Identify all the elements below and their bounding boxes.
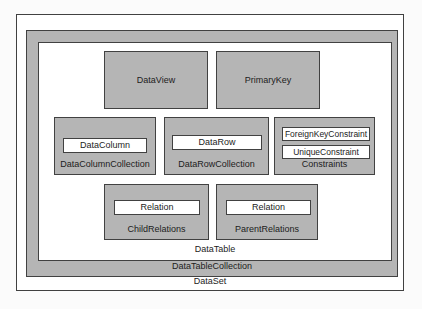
child-relation-box: Relation [114, 200, 200, 215]
childrelations-label: ChildRelations [105, 225, 208, 234]
datacolumn-box: DataColumn [63, 138, 147, 153]
primarykey-box: PrimaryKey [216, 51, 320, 109]
parent-relation-label: Relation [252, 203, 285, 212]
foreignkeyconstraint-box: ForeignKeyConstraint [282, 127, 370, 141]
parentrelations-label: ParentRelations [217, 225, 317, 234]
uniqueconstraint-label: UniqueConstraint [293, 148, 359, 157]
datatable-label: DataTable [39, 245, 391, 254]
datarowcollection-label: DataRowCollection [165, 160, 268, 169]
datacolumn-label: DataColumn [80, 141, 130, 150]
child-relation-label: Relation [140, 203, 173, 212]
parentrelations-box: Relation ParentRelations [216, 184, 318, 240]
datacolumncollection-box: DataColumn DataColumnCollection [54, 117, 156, 175]
constraints-box: ForeignKeyConstraint UniqueConstraint Co… [274, 117, 375, 175]
datacolumncollection-label: DataColumnCollection [55, 160, 155, 169]
datatable-box: DataTable DataView PrimaryKey DataColumn… [38, 42, 392, 261]
childrelations-box: Relation ChildRelations [104, 184, 209, 240]
datarowcollection-box: DataRow DataRowCollection [164, 117, 269, 175]
parent-relation-box: Relation [226, 200, 311, 215]
primarykey-label: PrimaryKey [245, 76, 292, 85]
uniqueconstraint-box: UniqueConstraint [282, 145, 370, 159]
datatablecollection-label: DataTableCollection [27, 262, 397, 271]
dataset-box: DataSet DataTableCollection DataTable Da… [16, 14, 404, 291]
datarow-box: DataRow [172, 135, 262, 150]
dataview-box: DataView [104, 51, 208, 109]
dataset-object-model-diagram: DataSet DataTableCollection DataTable Da… [0, 0, 422, 309]
datatablecollection-box: DataTableCollection DataTable DataView P… [26, 30, 398, 277]
datarow-label: DataRow [198, 138, 235, 147]
foreignkeyconstraint-label: ForeignKeyConstraint [285, 130, 367, 139]
dataview-label: DataView [137, 76, 175, 85]
dataset-label: DataSet [17, 277, 403, 286]
constraints-label: Constraints [275, 160, 374, 169]
